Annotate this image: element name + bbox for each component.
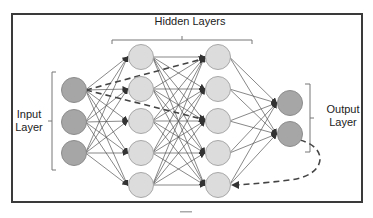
hidden2-node-3 (206, 109, 231, 134)
hidden1-node-2 (129, 77, 154, 102)
hidden1-node-4 (129, 141, 154, 166)
output-layer-label-line2: Layer (329, 116, 357, 128)
input-node-1 (62, 78, 87, 103)
bottom-handle (180, 211, 192, 213)
hidden2-node-2 (206, 77, 231, 102)
output-node-2 (278, 122, 303, 147)
output-node-1 (278, 91, 303, 116)
neural-network-diagram: Hidden Layers Input Layer Output Layer (0, 0, 373, 218)
hidden2-node-5 (206, 173, 231, 198)
hidden2-node-1 (206, 45, 231, 70)
input-layer-label-line1: Input (17, 108, 41, 120)
hidden1-node-3 (129, 109, 154, 134)
input-node-3 (62, 141, 87, 166)
output-layer-label-line1: Output (326, 103, 359, 115)
input-node-2 (62, 110, 87, 135)
input-layer-label-line2: Layer (15, 121, 43, 133)
hidden2-node-4 (206, 141, 231, 166)
hidden1-node-5 (129, 173, 154, 198)
hidden1-node-1 (129, 45, 154, 70)
hidden-layers-title: Hidden Layers (155, 15, 226, 27)
